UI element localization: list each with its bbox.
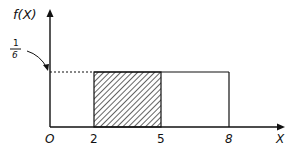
y-axis-arrow-icon [47,9,54,17]
uniform-density-figure: f(X) 1 6 O 2 5 8 X [0,0,295,151]
shaded-region [94,72,161,127]
density-numerator: 1 [13,38,19,48]
x-axis-label: X [275,132,285,146]
annotation-arrowhead-icon [43,64,49,71]
density-denominator: 6 [12,50,18,60]
x-tick-0: O [45,132,54,146]
x-tick-8: 8 [225,132,233,146]
x-axis-arrow-icon [277,124,285,131]
x-tick-5: 5 [157,132,165,146]
x-tick-2: 2 [90,132,98,146]
y-axis-label: f(X) [13,7,37,22]
